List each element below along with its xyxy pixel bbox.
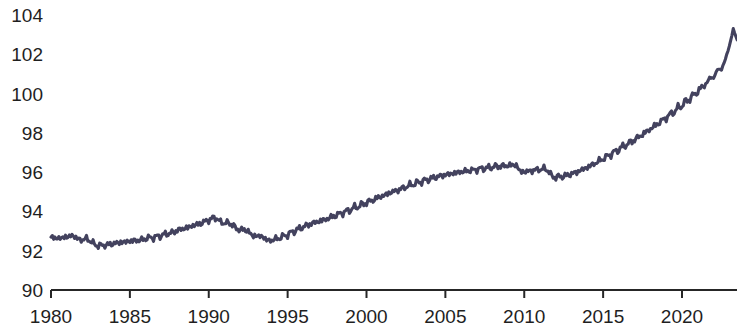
x-tick-label: 2015 — [582, 306, 624, 327]
x-tick-label: 2005 — [424, 306, 466, 327]
x-tick-label: 2000 — [345, 306, 387, 327]
x-axis-tick-labels: 198019851990199520002005201020152020 — [30, 306, 703, 327]
y-tick-label: 104 — [11, 5, 43, 26]
x-tick-label: 2020 — [661, 306, 703, 327]
x-axis-tick-marks — [51, 290, 682, 298]
y-tick-label: 98 — [22, 123, 43, 144]
y-tick-label: 100 — [11, 84, 43, 105]
chart-container: 9092949698100102104 19801985199019952000… — [0, 0, 737, 332]
y-tick-label: 92 — [22, 241, 43, 262]
y-axis-tick-labels: 9092949698100102104 — [11, 5, 43, 301]
x-tick-label: 1985 — [109, 306, 151, 327]
x-tick-label: 1995 — [266, 306, 308, 327]
x-tick-label: 1990 — [188, 306, 230, 327]
x-tick-label: 1980 — [30, 306, 72, 327]
line-chart: 9092949698100102104 19801985199019952000… — [0, 0, 737, 332]
x-tick-label: 2010 — [503, 306, 545, 327]
y-tick-label: 94 — [22, 201, 44, 222]
data-series-line — [51, 29, 737, 249]
y-tick-label: 102 — [11, 44, 43, 65]
y-tick-label: 90 — [22, 280, 43, 301]
y-tick-label: 96 — [22, 162, 43, 183]
